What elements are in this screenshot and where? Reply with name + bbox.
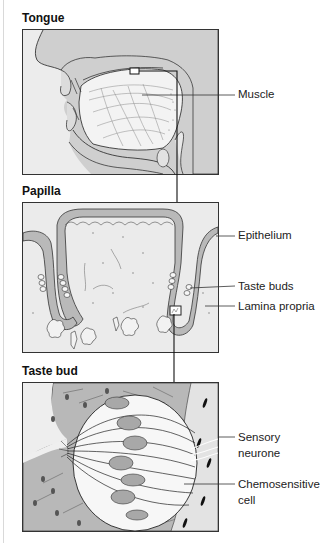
tastebud-title: Taste bud (22, 364, 78, 378)
papilla-figure (22, 202, 219, 353)
papilla-title: Papilla (22, 184, 61, 198)
label-lamina-propria: Lamina propria (238, 299, 315, 313)
label-sensory-neurone-line2: neurone (238, 446, 280, 460)
label-epithelium: Epithelium (238, 228, 292, 242)
label-chemosensitive-cell-line2: cell (238, 493, 255, 507)
label-chemosensitive-cell-line1: Chemosensitive (238, 477, 320, 491)
tongue-title: Tongue (22, 11, 64, 25)
label-sensory-neurone-line1: Sensory (238, 430, 280, 444)
tongue-figure (22, 29, 219, 175)
page-edge-line (3, 0, 4, 543)
label-muscle: Muscle (238, 87, 274, 101)
label-taste-buds: Taste buds (238, 279, 294, 293)
tastebud-figure (22, 382, 219, 532)
